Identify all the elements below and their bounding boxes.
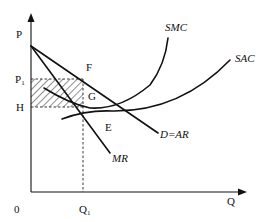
demand-label: D=AR [159,128,189,140]
point-f-label: F [86,61,92,73]
origin-label: 0 [14,203,20,215]
sac-label: SAC [235,52,255,64]
q1-label: Q1 [79,203,91,217]
smc-label: SMC [165,21,188,33]
x-axis-label: Q [227,195,235,207]
profit-area [31,79,83,107]
point-g-label: G [88,90,96,102]
y-axis-arrow-icon [28,13,35,22]
mr-label: MR [111,152,128,164]
monopoly-diagram: P Q 0 P1 H Q1 SMC SAC D=AR MR F G E [0,0,267,222]
h-label: H [16,101,24,113]
x-axis-arrow-icon [238,189,247,196]
y-axis-label: P [16,28,22,40]
point-e-label: E [105,121,112,133]
p1-label: P1 [15,73,25,87]
